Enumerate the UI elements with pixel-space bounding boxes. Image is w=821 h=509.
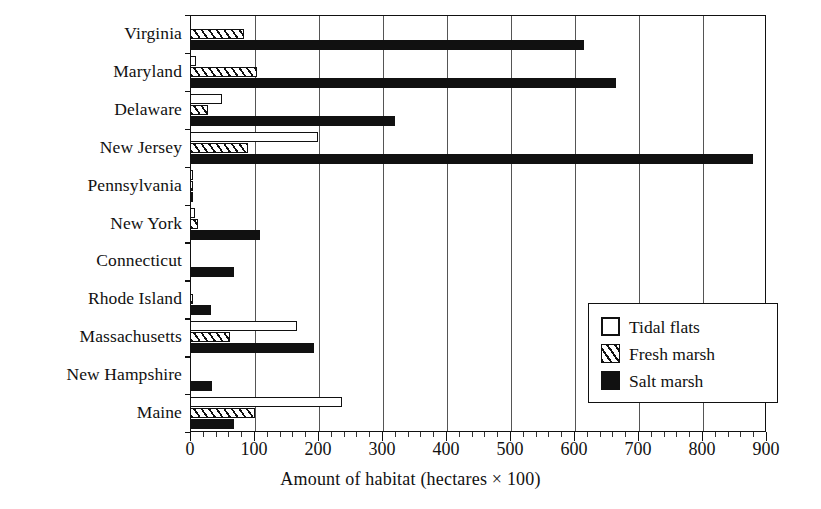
x-axis-minor-tick [536,432,537,437]
x-axis-minor-tick [331,432,332,437]
x-axis-minor-tick [395,432,396,437]
x-axis-minor-tick [625,432,626,437]
y-axis-category-label: New Hampshire [0,366,182,384]
x-axis-minor-tick [408,432,409,437]
x-axis-tick-label: 100 [241,440,268,458]
y-axis-category-label: Rhode Island [0,290,182,308]
x-axis-minor-tick [651,432,652,437]
bar-fresh [190,67,257,77]
filled-square-icon [601,371,620,390]
x-axis-minor-tick [433,432,434,437]
x-axis-minor-tick [689,432,690,437]
bar-flat [190,397,342,407]
x-axis-minor-tick [676,432,677,437]
x-axis-tick-label: 0 [186,440,195,458]
x-axis-minor-tick [369,432,370,437]
bar-flat [190,56,196,66]
bar-fresh [190,408,255,418]
x-axis-minor-tick [715,432,716,437]
y-axis-tick [185,15,191,16]
bar-fresh [190,219,198,229]
x-axis-minor-tick [548,432,549,437]
x-axis-minor-tick [664,432,665,437]
y-axis-category-label: Connecticut [0,252,182,270]
x-axis-minor-tick [280,432,281,437]
y-axis-tick [185,53,191,54]
y-axis-tick [185,242,191,243]
x-axis-tick-label: 600 [561,440,588,458]
bar-flat [190,208,195,218]
y-axis-category-label: Pennsylvania [0,177,182,195]
bar-salt [190,230,260,240]
x-axis-minor-tick [344,432,345,437]
x-axis-tick-label: 200 [305,440,332,458]
x-axis-tick-label: 700 [625,440,652,458]
y-axis-category-label: Virginia [0,25,182,43]
legend-item-tidal-flats: Tidal flats [601,313,777,340]
x-axis-minor-tick [600,432,601,437]
x-axis-minor-tick [484,432,485,437]
legend-label: Salt marsh [629,372,703,390]
x-axis-minor-tick [203,432,204,437]
legend-label: Tidal flats [629,318,700,336]
y-axis-tick [185,91,191,92]
x-axis-tick-label: 500 [497,440,524,458]
legend: Tidal flats Fresh marsh Salt marsh [588,303,778,403]
x-axis-minor-tick [356,432,357,437]
x-axis-tick-label: 800 [689,440,716,458]
y-axis-category-label: Delaware [0,101,182,119]
x-axis-minor-tick [228,432,229,437]
y-axis-tick [185,129,191,130]
bar-flat [190,94,222,104]
y-axis-tick [185,167,191,168]
x-axis-ticks [190,432,766,442]
bar-salt [190,267,234,277]
x-axis-tick-label: 400 [433,440,460,458]
x-axis-minor-tick [587,432,588,437]
x-axis-tick-label: 300 [369,440,396,458]
x-axis-minor-tick [740,432,741,437]
open-square-icon [601,317,620,336]
x-axis-minor-tick [728,432,729,437]
x-axis-minor-tick [459,432,460,437]
bar-salt [190,40,584,50]
y-axis-category-label: New Jersey [0,139,182,157]
bar-flat [190,170,193,180]
y-axis-tick [185,205,191,206]
x-axis-minor-tick [216,432,217,437]
y-axis-labels: VirginiaMarylandDelawareNew JerseyPennsy… [0,15,182,432]
x-axis-minor-tick [523,432,524,437]
x-axis-minor-tick [241,432,242,437]
x-axis-minor-tick [472,432,473,437]
hatched-square-icon [601,344,620,363]
x-axis-title: Amount of habitat (hectares × 100) [0,469,821,490]
bar-salt [190,116,395,126]
x-axis-minor-tick [612,432,613,437]
bar-fresh [190,143,248,153]
y-axis-category-label: Maine [0,404,182,422]
x-axis-minor-tick [420,432,421,437]
y-axis-category-label: Maryland [0,63,182,81]
x-axis-minor-tick [753,432,754,437]
legend-label: Fresh marsh [629,345,715,363]
x-axis-minor-tick [561,432,562,437]
bar-flat [190,132,318,142]
x-axis-minor-tick [267,432,268,437]
bar-fresh [190,294,193,304]
y-axis-tick [185,356,191,357]
bar-salt [190,305,211,315]
bar-salt [190,192,193,202]
x-axis-minor-tick [305,432,306,437]
legend-item-fresh-marsh: Fresh marsh [601,340,777,367]
bar-salt [190,381,212,391]
bar-salt [190,419,234,429]
bar-fresh [190,105,208,115]
x-axis-minor-tick [497,432,498,437]
bar-fresh [190,181,193,191]
x-axis-tick-label: 900 [753,440,780,458]
bar-salt [190,78,616,88]
bar-fresh [190,29,244,39]
y-axis-category-label: New York [0,215,182,233]
y-axis-tick [185,280,191,281]
bar-flat [190,321,297,331]
